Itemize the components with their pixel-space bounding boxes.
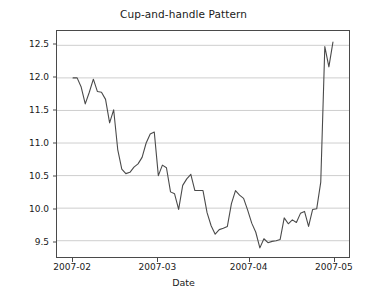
x-axis-label: Date bbox=[0, 277, 367, 288]
y-tick-label: 10.0 bbox=[9, 204, 49, 214]
plot-area bbox=[56, 30, 350, 258]
x-tick-mark bbox=[157, 258, 158, 262]
y-tick-label: 10.5 bbox=[9, 171, 49, 181]
y-tick-label: 11.0 bbox=[9, 138, 49, 148]
x-tick-mark bbox=[334, 258, 335, 262]
x-tick-label: 2007-04 bbox=[214, 262, 284, 272]
x-tick-label: 2007-02 bbox=[37, 262, 107, 272]
x-tick-label: 2007-03 bbox=[122, 262, 192, 272]
chart-title: Cup-and-handle Pattern bbox=[0, 8, 367, 20]
price-line bbox=[73, 42, 333, 248]
x-tick-mark bbox=[249, 258, 250, 262]
x-tick-mark bbox=[72, 258, 73, 262]
y-tick-label: 12.5 bbox=[9, 39, 49, 49]
y-tick-label: 12.0 bbox=[9, 72, 49, 82]
x-tick-label: 2007-05 bbox=[299, 262, 367, 272]
price-line-series bbox=[57, 31, 349, 257]
y-tick-label: 9.5 bbox=[9, 237, 49, 247]
chart-figure: Cup-and-handle Pattern Price 9.510.010.5… bbox=[0, 0, 367, 298]
y-tick-label: 11.5 bbox=[9, 105, 49, 115]
